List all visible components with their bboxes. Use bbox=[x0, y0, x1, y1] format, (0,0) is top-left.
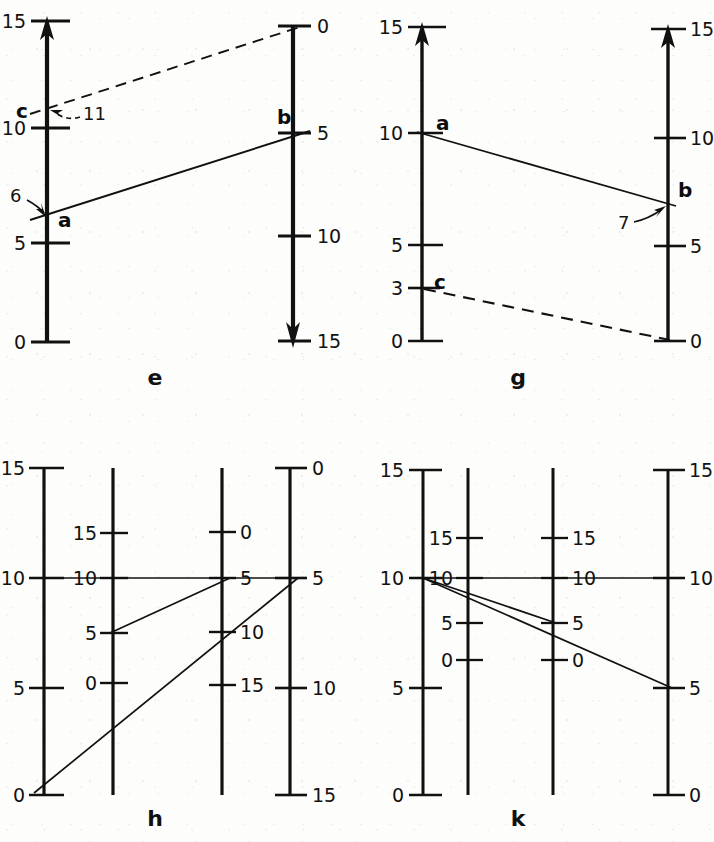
panel-g-connector-ab bbox=[417, 132, 676, 206]
panel-h-connector-2to3 bbox=[110, 578, 230, 633]
panel-h-axis-3: 0 5 10 15 bbox=[209, 468, 264, 795]
panel-e-caption: e bbox=[148, 365, 163, 390]
panel-e-annotation-11: 11 bbox=[83, 103, 106, 124]
panel-k-axis-2: 15 10 5 0 bbox=[429, 468, 483, 795]
panel-e-axis-right: 0 5 10 15 bbox=[278, 15, 341, 352]
tick-label-0: 0 bbox=[317, 15, 329, 37]
panel-k-axis-3: 15 10 5 0 bbox=[541, 468, 596, 795]
panel-h-axis-4: 0 5 10 15 bbox=[275, 457, 336, 806]
tick-label-15: 15 bbox=[73, 522, 97, 544]
panel-h-axis-1: 15 10 5 0 bbox=[1, 457, 64, 806]
tick-label-5: 5 bbox=[690, 235, 702, 257]
tick-label-5: 5 bbox=[312, 567, 324, 589]
tick-label-5: 5 bbox=[392, 677, 404, 699]
panel-g-annotation-7-leader bbox=[634, 210, 661, 222]
panel-k-caption: k bbox=[511, 806, 527, 831]
tick-label-5: 5 bbox=[13, 677, 25, 699]
panel-g-point-label-a: a bbox=[436, 111, 450, 135]
tick-label-5: 5 bbox=[14, 232, 26, 254]
panel-g: 0 3 5 10 15 0 5 10 15 a b c 7 g bbox=[379, 16, 714, 390]
panel-h: 15 10 5 0 15 10 5 0 0 5 10 15 bbox=[1, 457, 336, 831]
tick-label-0: 0 bbox=[391, 330, 403, 352]
panel-e-axis-left: 0 5 10 15 bbox=[2, 10, 70, 353]
arrow-head-icon bbox=[654, 206, 666, 217]
tick-label-10: 10 bbox=[1, 567, 25, 589]
tick-label-0: 0 bbox=[85, 672, 97, 694]
arrow-head-icon bbox=[36, 203, 46, 217]
panel-g-connector-c-zero bbox=[424, 289, 670, 340]
tick-label-0: 0 bbox=[240, 521, 252, 543]
panel-e-point-label-c: c bbox=[16, 99, 28, 123]
panel-g-annotation-7: 7 bbox=[618, 212, 629, 233]
tick-label-10: 10 bbox=[689, 567, 713, 589]
panel-k-connector-1to4 bbox=[423, 578, 672, 688]
tick-label-15: 15 bbox=[429, 527, 453, 549]
panel-e-connector-c-zero bbox=[30, 27, 300, 114]
panel-h-axis-2: 15 10 5 0 bbox=[73, 468, 128, 795]
tick-label-15: 15 bbox=[690, 18, 714, 40]
tick-label-15: 15 bbox=[380, 459, 404, 481]
tick-label-0: 0 bbox=[13, 784, 25, 806]
tick-label-15: 15 bbox=[240, 674, 264, 696]
tick-label-10: 10 bbox=[379, 122, 403, 144]
panel-e-annotation-6: 6 bbox=[10, 185, 21, 206]
tick-label-0: 0 bbox=[572, 649, 584, 671]
tick-label-15: 15 bbox=[572, 527, 596, 549]
tick-label-5: 5 bbox=[391, 234, 403, 256]
tick-label-0: 0 bbox=[689, 784, 701, 806]
panel-h-caption: h bbox=[147, 806, 163, 831]
nomogram-figure: 0 5 10 15 0 5 10 15 c a b 6 bbox=[0, 0, 714, 842]
panel-e-point-label-a: a bbox=[58, 208, 72, 232]
tick-label-10: 10 bbox=[312, 677, 336, 699]
panel-g-caption: g bbox=[510, 365, 526, 390]
tick-label-10: 10 bbox=[380, 567, 404, 589]
panel-k: 15 10 5 0 15 10 5 0 15 10 5 0 bbox=[380, 459, 713, 831]
tick-label-15: 15 bbox=[317, 330, 341, 352]
panel-g-axis-left: 0 3 5 10 15 bbox=[379, 16, 446, 352]
tick-label-15: 15 bbox=[379, 16, 403, 38]
panel-e-point-label-b: b bbox=[277, 105, 291, 129]
tick-label-15: 15 bbox=[689, 459, 713, 481]
tick-label-5: 5 bbox=[317, 122, 329, 144]
tick-label-5: 5 bbox=[572, 612, 584, 634]
panel-e: 0 5 10 15 0 5 10 15 c a b 6 bbox=[2, 10, 341, 390]
tick-label-0: 0 bbox=[441, 649, 453, 671]
tick-label-5: 5 bbox=[85, 622, 97, 644]
tick-label-0: 0 bbox=[312, 457, 324, 479]
panel-k-axis-1: 15 10 5 0 bbox=[380, 459, 442, 806]
panel-g-point-label-c: c bbox=[434, 270, 446, 294]
tick-label-10: 10 bbox=[317, 225, 341, 247]
tick-label-3: 3 bbox=[391, 277, 403, 299]
tick-label-15: 15 bbox=[312, 784, 336, 806]
tick-label-10: 10 bbox=[690, 127, 714, 149]
tick-label-0: 0 bbox=[392, 784, 404, 806]
tick-label-15: 15 bbox=[1, 457, 25, 479]
panel-k-axis-4: 15 10 5 0 bbox=[653, 459, 713, 806]
tick-label-0: 0 bbox=[14, 331, 26, 353]
tick-label-5: 5 bbox=[441, 612, 453, 634]
tick-label-5: 5 bbox=[689, 677, 701, 699]
tick-label-15: 15 bbox=[2, 10, 26, 32]
tick-label-0: 0 bbox=[690, 330, 702, 352]
panel-e-connector-ab bbox=[30, 131, 310, 220]
panel-g-point-label-b: b bbox=[678, 178, 692, 202]
tick-label-10: 10 bbox=[240, 621, 264, 643]
